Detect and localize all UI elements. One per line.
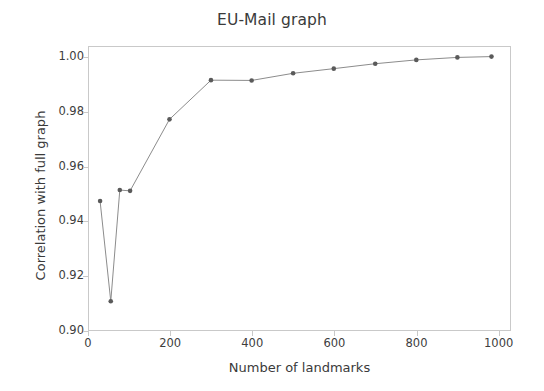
data-point-marker	[249, 78, 254, 83]
data-series-line	[89, 47, 512, 332]
y-tick-label: 0.90	[0, 323, 91, 337]
data-point-marker	[108, 299, 113, 304]
data-point-marker	[331, 66, 336, 71]
chart-title: EU-Mail graph	[0, 11, 544, 29]
data-point-marker	[128, 189, 133, 194]
x-axis-label: Number of landmarks	[88, 360, 511, 375]
data-point-marker	[455, 55, 460, 60]
data-point-marker	[98, 199, 103, 204]
y-tick-label: 1.00	[0, 49, 91, 63]
data-point-marker	[209, 78, 214, 83]
data-point-marker	[414, 58, 419, 63]
x-tick-label: 1000	[469, 336, 529, 350]
data-point-marker	[373, 61, 378, 66]
x-tick-label: 800	[387, 336, 447, 350]
x-tick-label: 400	[222, 336, 282, 350]
data-point-marker	[489, 54, 494, 59]
plot-area	[88, 46, 511, 331]
x-tick-label: 600	[304, 336, 364, 350]
data-point-marker	[291, 71, 296, 76]
x-tick-label: 0	[58, 336, 118, 350]
x-tick-label: 200	[140, 336, 200, 350]
data-point-marker	[118, 188, 123, 193]
chart-figure: EU-Mail graph 0.900.920.940.960.981.00 0…	[0, 0, 544, 391]
y-axis-label: Correlation with full graph	[33, 76, 48, 316]
data-point-marker	[167, 117, 172, 122]
